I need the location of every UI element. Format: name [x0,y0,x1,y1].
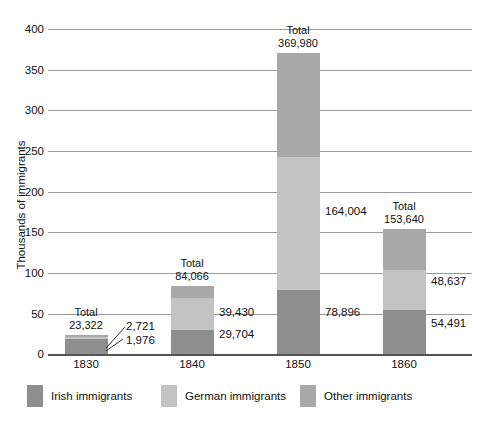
total-value-1860: 153,640 [359,213,449,226]
value-label-1830-german: 2,721 [126,320,155,332]
immigration-stacked-bar-chart: Thousands of immigrants 400 350 300 250 … [0,0,484,435]
bar-1840-segment-german [171,298,214,330]
y-axis-title-text: Thousands of immigrants [15,140,27,269]
bar-1840-segment-irish [171,330,214,354]
bar-1850 [277,53,320,354]
x-tick-1840: 1840 [152,358,232,370]
legend-swatch-other-icon [300,385,316,407]
bar-1830-segment-irish [65,339,108,354]
total-value-1850: 369,980 [253,37,343,50]
y-tick-150: 150 [0,226,44,238]
bar-1860-segment-german [383,270,426,310]
total-word-1860: Total [359,200,449,213]
legend-swatch-german-icon [161,385,177,407]
total-label-1860: Total 153,640 [359,200,449,225]
total-word-1830: Total [41,306,131,319]
y-tick-100: 100 [0,267,44,279]
y-tick-200: 200 [0,186,44,198]
bar-1860 [383,229,426,354]
bar-1830 [65,335,108,354]
y-tick-50: 50 [0,308,44,320]
bar-1840-segment-other [171,286,214,298]
legend-item-german[interactable]: German immigrants [161,385,286,407]
value-label-1850-german: 164,004 [325,205,367,217]
legend-label-irish: Irish immigrants [51,390,132,402]
gridline-200 [48,192,472,193]
x-tick-1860: 1860 [364,358,444,370]
value-label-1840-irish: 29,704 [219,328,254,340]
total-label-1840: Total 84,066 [147,257,237,282]
x-tick-1850: 1850 [258,358,338,370]
y-tick-0: 0 [0,348,44,360]
value-label-1830-other: 1,976 [126,334,155,346]
bar-1850-segment-other [277,53,320,157]
legend-item-other[interactable]: Other immigrants [300,385,412,407]
value-label-1840-german: 39,430 [219,306,254,318]
legend-swatch-irish-icon [27,385,43,407]
bar-1840 [171,286,214,354]
total-value-1840: 84,066 [147,270,237,283]
y-tick-300: 300 [0,104,44,116]
legend-item-irish[interactable]: Irish immigrants [27,385,132,407]
x-tick-1830: 1830 [46,358,126,370]
y-tick-250: 250 [0,145,44,157]
value-label-1860-irish: 54,491 [431,317,466,329]
legend-label-german: German immigrants [185,390,286,402]
y-tick-400: 400 [0,23,44,35]
x-axis-line [48,354,472,356]
y-tick-350: 350 [0,64,44,76]
gridline-300 [48,110,472,111]
bar-1860-segment-irish [383,310,426,354]
gridline-250 [48,151,472,152]
bar-1860-segment-other [383,229,426,270]
bar-1850-segment-irish [277,290,320,354]
chart-legend: Irish immigrants German immigrants Other… [0,385,484,415]
bar-1850-segment-german [277,157,320,290]
value-label-1850-irish: 78,896 [325,306,360,318]
legend-label-other: Other immigrants [324,390,412,402]
value-label-1860-german: 48,637 [431,275,466,287]
total-word-1840: Total [147,257,237,270]
gridline-350 [48,70,472,71]
total-word-1850: Total [253,24,343,37]
total-label-1850: Total 369,980 [253,24,343,49]
